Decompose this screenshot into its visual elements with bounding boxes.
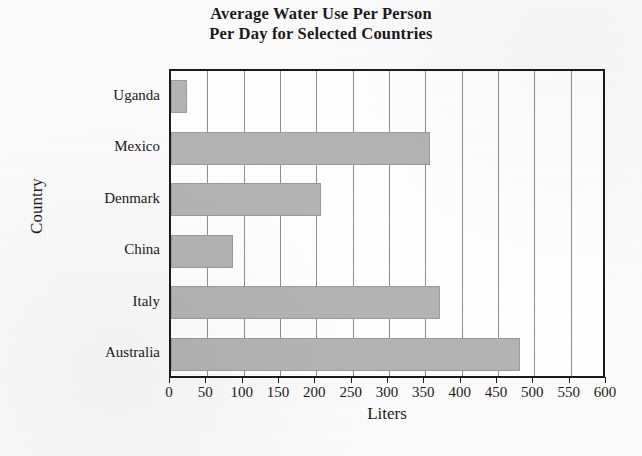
bar-row [171, 235, 605, 268]
x-tickmark [387, 377, 388, 383]
bar-series [171, 71, 603, 376]
bar-denmark [171, 183, 321, 216]
x-tickmark [460, 377, 461, 383]
x-tickmark [532, 377, 533, 383]
bar-italy [171, 286, 440, 319]
x-tickmark [496, 377, 497, 383]
y-axis-tick-labels: UgandaMexicoDenmarkChinaItalyAustralia [0, 0, 169, 456]
x-tickmark [169, 377, 170, 383]
x-tick-label: 350 [412, 384, 435, 401]
x-tick-label: 450 [485, 384, 508, 401]
bar-chart-figure: Average Water Use Per Person Per Day for… [0, 0, 642, 456]
x-tick-label: 100 [230, 384, 253, 401]
bar-row [171, 338, 605, 371]
bar-australia [171, 338, 520, 371]
y-tick-label-australia: Australia [9, 344, 169, 361]
y-axis-title: Country [27, 146, 47, 266]
x-tickmark [314, 377, 315, 383]
x-tickmark [278, 377, 279, 383]
x-tickmark [569, 377, 570, 383]
x-tick-label: 600 [594, 384, 617, 401]
x-tick-label: 0 [165, 384, 173, 401]
bar-row [171, 286, 605, 319]
x-tick-label: 150 [267, 384, 290, 401]
x-tick-label: 50 [198, 384, 213, 401]
x-tickmark [205, 377, 206, 383]
y-tick-label-italy: Italy [9, 292, 169, 309]
bar-mexico [171, 132, 430, 165]
x-tickmark [605, 377, 606, 383]
x-tick-label: 500 [521, 384, 544, 401]
x-tickmark [351, 377, 352, 383]
x-tick-label: 200 [303, 384, 326, 401]
x-tick-label: 250 [339, 384, 362, 401]
x-tickmark [423, 377, 424, 383]
bar-row [171, 80, 605, 113]
bar-china [171, 235, 233, 268]
x-tick-label: 400 [448, 384, 471, 401]
bar-row [171, 183, 605, 216]
bar-row [171, 132, 605, 165]
x-tick-label: 550 [557, 384, 580, 401]
y-tick-label-uganda: Uganda [9, 86, 169, 103]
x-tickmark [242, 377, 243, 383]
plot-area [169, 69, 605, 378]
x-axis-title: Liters [169, 404, 605, 424]
bar-uganda [171, 80, 187, 113]
x-tick-label: 300 [376, 384, 399, 401]
